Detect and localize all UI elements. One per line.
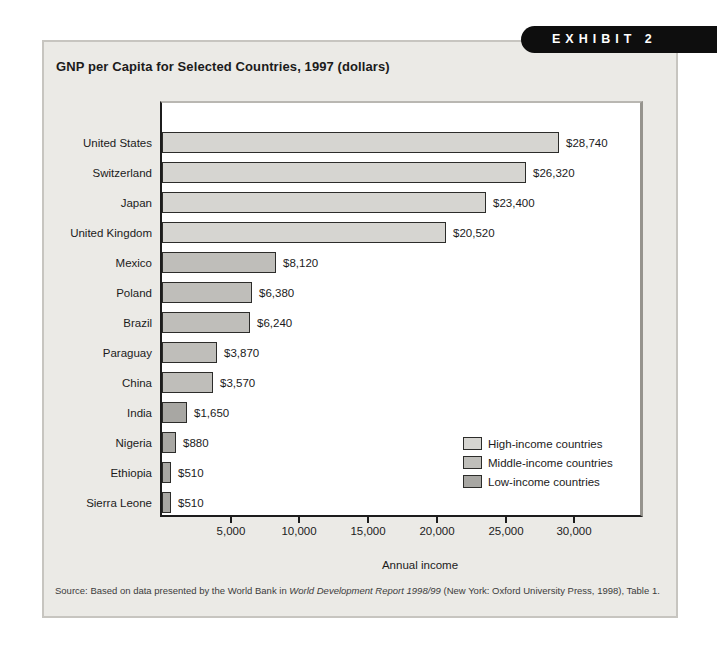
country-label: China (44, 372, 152, 394)
axis-tick (367, 516, 369, 523)
country-label: Paraguay (44, 342, 152, 364)
source-text: Source: Based on data presented by the W… (55, 585, 289, 596)
bar-row: United Kingdom$20,520 (44, 222, 676, 244)
axis-tick (505, 516, 507, 523)
axis-tick (573, 516, 575, 523)
value-label: $28,740 (566, 132, 608, 154)
bar-row: Japan$23,400 (44, 192, 676, 214)
value-label: $510 (178, 492, 204, 514)
axis-tick (230, 516, 232, 523)
axis-tick-label: 20,000 (403, 525, 471, 537)
bar-row: Brazil$6,240 (44, 312, 676, 334)
legend-swatch-low (463, 475, 482, 488)
country-label: Mexico (44, 252, 152, 274)
x-axis-title: Annual income (330, 559, 510, 571)
axis-tick-label: 30,000 (540, 525, 608, 537)
value-label: $1,650 (194, 402, 229, 424)
axis-tick (436, 516, 438, 523)
page: EXHIBIT 2 GNP per Capita for Selected Co… (0, 0, 717, 649)
exhibit-label: EXHIBIT 2 (552, 26, 657, 53)
legend-label: Middle-income countries (488, 457, 613, 469)
bar-row: China$3,570 (44, 372, 676, 394)
bar-row: Mexico$8,120 (44, 252, 676, 274)
bar-high (162, 162, 526, 183)
bar-middle (162, 312, 250, 333)
chart-title: GNP per Capita for Selected Countries, 1… (56, 59, 390, 74)
value-label: $510 (178, 462, 204, 484)
country-label: Ethiopia (44, 462, 152, 484)
exhibit-tab: EXHIBIT 2 (521, 26, 717, 53)
bar-high (162, 192, 486, 213)
bar-row: United States$28,740 (44, 132, 676, 154)
value-label: $23,400 (493, 192, 535, 214)
value-label: $880 (183, 432, 209, 454)
axis-tick-label: 10,000 (265, 525, 333, 537)
axis-tick-label: 25,000 (472, 525, 540, 537)
country-label: Brazil (44, 312, 152, 334)
country-label: Japan (44, 192, 152, 214)
legend-item: Low-income countries (463, 474, 613, 489)
bar-row: Paraguay$3,870 (44, 342, 676, 364)
bar-high (162, 222, 446, 243)
bar-row: Poland$6,380 (44, 282, 676, 304)
value-label: $3,570 (220, 372, 255, 394)
legend-label: High-income countries (488, 438, 602, 450)
legend-swatch-high (463, 437, 482, 450)
country-label: Nigeria (44, 432, 152, 454)
country-label: Sierra Leone (44, 492, 152, 514)
bar-high (162, 132, 559, 153)
source-note: Source: Based on data presented by the W… (55, 585, 665, 596)
bar-middle (162, 252, 276, 273)
bar-middle (162, 372, 213, 393)
bar-low (162, 402, 187, 423)
country-label: United States (44, 132, 152, 154)
country-label: India (44, 402, 152, 424)
bar-low (162, 492, 171, 513)
bar-row: Sierra Leone$510 (44, 492, 676, 514)
value-label: $3,870 (224, 342, 259, 364)
bar-low (162, 432, 176, 453)
country-label: United Kingdom (44, 222, 152, 244)
country-label: Switzerland (44, 162, 152, 184)
value-label: $8,120 (283, 252, 318, 274)
axis-tick-label: 15,000 (334, 525, 402, 537)
axis-tick (298, 516, 300, 523)
bar-row: India$1,650 (44, 402, 676, 424)
bar-low (162, 462, 171, 483)
country-label: Poland (44, 282, 152, 304)
bar-middle (162, 342, 217, 363)
source-text-end: (New York: Oxford University Press, 1998… (441, 585, 660, 596)
legend-swatch-middle (463, 456, 482, 469)
value-label: $26,320 (533, 162, 575, 184)
legend-item: Middle-income countries (463, 455, 613, 470)
value-label: $6,380 (259, 282, 294, 304)
legend-label: Low-income countries (488, 476, 600, 488)
source-citation-italic: World Development Report 1998/99 (289, 585, 441, 596)
value-label: $6,240 (257, 312, 292, 334)
bar-row: Switzerland$26,320 (44, 162, 676, 184)
chart-panel: GNP per Capita for Selected Countries, 1… (42, 40, 678, 618)
value-label: $20,520 (453, 222, 495, 244)
axis-tick-label: 5,000 (197, 525, 265, 537)
bar-middle (162, 282, 252, 303)
legend: High-income countriesMiddle-income count… (463, 436, 613, 493)
legend-item: High-income countries (463, 436, 613, 451)
